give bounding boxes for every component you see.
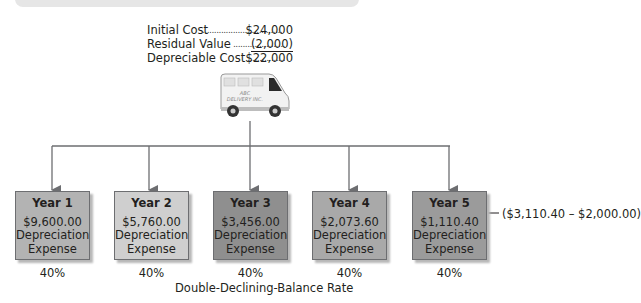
depreciation-amount: $2,073.60 [313, 216, 386, 230]
year-2-box: Year 2 $5,760.00 Depreciation Expense [114, 191, 189, 260]
expense-label: Expense [214, 243, 287, 257]
depreciation-label: Depreciation [115, 229, 188, 243]
year-title: Year 3 [214, 197, 287, 211]
expense-label: Expense [313, 243, 386, 257]
year-1-box: Year 1 $9,600.00 Depreciation Expense [15, 191, 90, 260]
depreciation-label: Depreciation [413, 229, 486, 243]
depreciation-amount: $1,110.40 [413, 216, 486, 230]
rate-year-5: 40% [412, 266, 487, 280]
year-title: Year 4 [313, 197, 386, 211]
depreciation-label: Depreciation [313, 229, 386, 243]
year-5-calculation-note: ($3,110.40 – $2,000.00) [502, 207, 641, 221]
depreciation-label: Depreciation [16, 229, 89, 243]
year-title: Year 1 [16, 197, 89, 211]
depreciation-amount: $9,600.00 [16, 216, 89, 230]
expense-label: Expense [16, 243, 89, 257]
year-title: Year 5 [413, 197, 486, 211]
depreciation-amount: $3,456.00 [214, 216, 287, 230]
rate-year-2: 40% [114, 266, 189, 280]
expense-label: Expense [115, 243, 188, 257]
expense-label: Expense [413, 243, 486, 257]
rate-year-1: 40% [15, 266, 90, 280]
depreciation-label: Depreciation [214, 229, 287, 243]
depreciation-amount: $5,760.00 [115, 216, 188, 230]
year-4-box: Year 4 $2,073.60 Depreciation Expense [312, 191, 387, 260]
rate-year-3: 40% [213, 266, 288, 280]
year-5-box: Year 5 $1,110.40 Depreciation Expense [412, 191, 487, 260]
rate-year-4: 40% [312, 266, 387, 280]
rate-caption: Double-Declining-Balance Rate [175, 281, 353, 295]
year-3-box: Year 3 $3,456.00 Depreciation Expense [213, 191, 288, 260]
year-title: Year 2 [115, 197, 188, 211]
